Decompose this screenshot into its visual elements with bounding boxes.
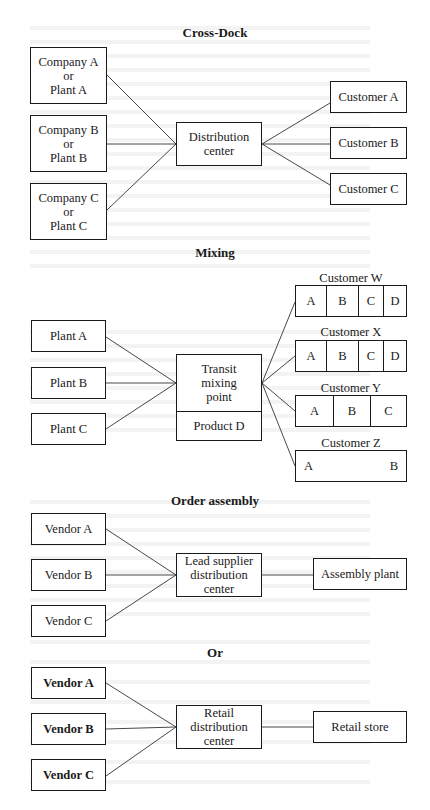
retail-dc-box: Retail distribution center: [176, 705, 262, 749]
cell: A: [296, 341, 327, 371]
customer-z-cells: A B: [295, 450, 407, 482]
source-label: Plant B: [38, 151, 98, 165]
customer-x-cells: A B C D: [295, 340, 407, 372]
section-title-cross-dock: Cross-Dock: [0, 25, 430, 41]
cell: D: [384, 286, 406, 316]
section-title-order-assembly: Order assembly: [0, 493, 430, 509]
cell: B: [327, 286, 359, 316]
source-label: or: [38, 137, 98, 151]
vendor-c-box: Vendor C: [31, 605, 106, 637]
hub-label: center: [190, 734, 248, 748]
customer-z-label: Customer Z: [295, 436, 407, 451]
cell: C: [371, 396, 406, 426]
source-label: Company A: [38, 55, 98, 69]
customer-y-cells: A B C: [295, 395, 407, 427]
hub-label: Retail: [190, 706, 248, 720]
transit-mixing-point-box: Transit mixing point Product D: [176, 354, 262, 441]
retail-vendor-b-box: Vendor B: [31, 713, 106, 745]
source-label: Plant A: [38, 83, 98, 97]
cell: A: [296, 286, 327, 316]
hub-label: point: [201, 390, 236, 404]
cell: C: [359, 341, 384, 371]
source-label: Company C: [38, 191, 98, 205]
hub-label: Transit: [201, 362, 236, 376]
hub-label: distribution: [185, 568, 253, 582]
vendor-b-box: Vendor B: [31, 559, 106, 591]
customer-w-label: Customer W: [295, 271, 407, 286]
source-company-c: Company C or Plant C: [30, 183, 107, 240]
customer-b-box: Customer B: [330, 127, 407, 159]
cell: B: [327, 341, 359, 371]
source-label: Company B: [38, 123, 98, 137]
plant-b-box: Plant B: [31, 367, 106, 399]
source-company-b: Company B or Plant B: [30, 115, 107, 172]
retail-vendor-c-box: Vendor C: [31, 759, 106, 791]
cell: C: [359, 286, 384, 316]
product-d-label: Product D: [177, 412, 261, 440]
hub-label: mixing: [201, 376, 236, 390]
source-label: or: [38, 205, 98, 219]
vendor-a-box: Vendor A: [31, 513, 106, 545]
source-label: Plant C: [38, 219, 98, 233]
hub-label: Distribution: [189, 130, 249, 144]
lead-supplier-dc-box: Lead supplier distribution center: [176, 553, 262, 597]
cell: B: [334, 396, 371, 426]
cell: A: [304, 451, 313, 481]
hub-label: distribution: [190, 720, 248, 734]
plant-a-box: Plant A: [31, 320, 106, 352]
cell: A: [296, 396, 334, 426]
cell: B: [390, 451, 398, 481]
plant-c-box: Plant C: [31, 413, 106, 445]
assembly-plant-box: Assembly plant: [313, 558, 407, 590]
cell: D: [384, 341, 406, 371]
customer-x-label: Customer X: [295, 325, 407, 340]
hub-label: center: [189, 144, 249, 158]
hub-label: center: [185, 582, 253, 596]
customer-c-box: Customer C: [330, 173, 407, 205]
source-company-a: Company A or Plant A: [30, 47, 107, 104]
retail-vendor-a-box: Vendor A: [31, 667, 106, 699]
customer-a-box: Customer A: [330, 81, 407, 113]
source-label: or: [38, 69, 98, 83]
distribution-center-box: Distribution center: [176, 122, 262, 166]
customer-w-cells: A B C D: [295, 285, 407, 317]
customer-y-label: Customer Y: [295, 381, 407, 396]
hub-label: Lead supplier: [185, 554, 253, 568]
retail-store-box: Retail store: [313, 711, 407, 743]
section-title-mixing: Mixing: [0, 245, 430, 261]
or-separator: Or: [0, 645, 430, 661]
